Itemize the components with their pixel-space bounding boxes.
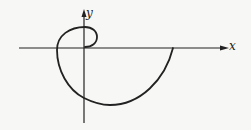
spiral-diagram: x y — [0, 0, 251, 130]
diagram-svg — [0, 0, 251, 130]
y-axis-label: y — [86, 7, 93, 19]
spiral-curve — [57, 27, 173, 105]
x-axis-arrow-icon — [220, 46, 229, 51]
x-axis-label: x — [229, 40, 236, 52]
